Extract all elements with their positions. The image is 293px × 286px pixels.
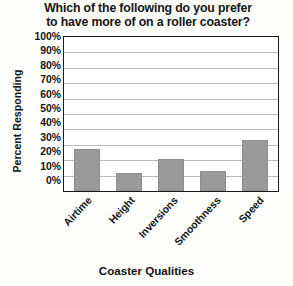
y-axis-tick-label: 90% [16, 45, 61, 56]
bar-chart-figure: Which of the following do you prefer to … [0, 0, 293, 286]
bar-height [116, 173, 142, 191]
bar-slot [234, 37, 276, 191]
bar-airtime [74, 149, 100, 191]
y-axis-tick-label: 70% [16, 74, 61, 85]
y-axis-tick-label: 80% [16, 59, 61, 70]
bar-speed [242, 140, 268, 191]
y-axis-tick-label: 20% [16, 146, 61, 157]
plot-area [63, 36, 279, 192]
x-axis-tick-labels: AirtimeHeightInversionsSmoothnessSpeed [63, 194, 279, 256]
chart-title: Which of the following do you prefer to … [24, 2, 272, 29]
y-axis-tick-label: 30% [16, 131, 61, 142]
x-axis-tick-label: Inversions [136, 194, 180, 240]
y-axis-tick-label: 100% [16, 31, 61, 42]
y-axis-tick-label: 40% [16, 117, 61, 128]
x-axis-tick-label: Height [106, 194, 137, 226]
y-axis-tick-label: 0% [16, 175, 61, 186]
bar-slot [66, 37, 108, 191]
bar-slot [192, 37, 234, 191]
x-axis-tick-label: Airtime [60, 194, 93, 228]
bar-slot [150, 37, 192, 191]
x-axis-title: Coaster Qualities [0, 264, 293, 277]
y-axis-tick-label: 60% [16, 88, 61, 99]
bar-slot [108, 37, 150, 191]
y-axis-tick-label: 50% [16, 103, 61, 114]
chart-title-line-1: Which of the following do you prefer [24, 2, 272, 16]
x-axis-tick-label: Speed [236, 194, 266, 225]
bar-series [64, 37, 278, 191]
chart-title-line-2: to have more of on a roller coaster? [24, 16, 272, 30]
y-axis-tick-labels: 100%90%80%70%60%50%40%30%20%10%0% [16, 30, 61, 198]
y-axis-tick-label: 10% [16, 160, 61, 171]
bar-inversions [158, 159, 184, 191]
bar-smoothness [200, 171, 226, 191]
